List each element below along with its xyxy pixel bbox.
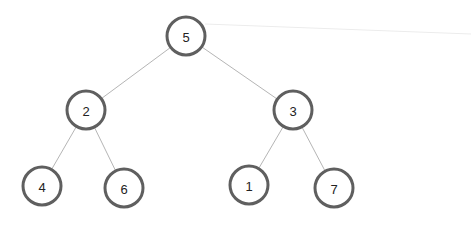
edge-3-1 <box>259 126 284 168</box>
tree-nodes: 5234617 <box>23 17 353 207</box>
node-label: 7 <box>330 182 337 197</box>
faint-stray-line <box>205 24 471 34</box>
edge-2-6 <box>94 127 115 171</box>
tree-diagram: 5234617 <box>0 0 471 225</box>
node-label: 6 <box>120 182 127 197</box>
node-label: 3 <box>289 104 296 119</box>
edge-5-3 <box>202 47 278 99</box>
tree-node-1: 1 <box>230 166 268 204</box>
edge-5-2 <box>101 47 170 98</box>
tree-node-6: 6 <box>105 169 143 207</box>
tree-node-7: 7 <box>315 169 353 207</box>
tree-node-3: 3 <box>274 91 312 129</box>
tree-node-2: 2 <box>67 91 105 129</box>
node-label: 1 <box>245 179 252 194</box>
edge-2-4 <box>52 126 77 169</box>
node-label: 4 <box>38 180 45 195</box>
tree-node-5: 5 <box>167 17 205 55</box>
edge-3-7 <box>302 127 325 171</box>
node-label: 2 <box>82 104 89 119</box>
tree-node-4: 4 <box>23 167 61 205</box>
node-label: 5 <box>182 30 189 45</box>
